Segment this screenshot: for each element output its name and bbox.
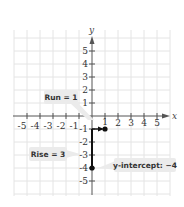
coordinate-plane: y x -5 -4 -3 -2 -1 1 2 3 4 5 5 4 3 2 1 -…: [0, 0, 184, 207]
point-y-intercept: [89, 165, 94, 170]
svg-text:-4: -4: [31, 121, 40, 131]
svg-text:-2: -2: [79, 137, 88, 147]
x-axis-label: x: [172, 111, 177, 121]
svg-text:-3: -3: [79, 150, 88, 160]
rise-callout: Rise = 3: [29, 147, 80, 161]
svg-text:1: 1: [102, 117, 108, 127]
intercept-callout: y-intercept: −4: [98, 158, 177, 172]
run-label: Run = 1: [44, 93, 77, 102]
svg-text:-5: -5: [79, 176, 88, 186]
svg-text:2: 2: [115, 118, 121, 128]
svg-text:-4: -4: [79, 163, 88, 173]
svg-text:5: 5: [154, 118, 160, 128]
svg-text:-5: -5: [18, 121, 27, 131]
point-1-neg1: [102, 126, 107, 131]
svg-text:1: 1: [82, 98, 88, 108]
svg-text:2: 2: [82, 85, 88, 95]
svg-text:5: 5: [82, 46, 88, 56]
svg-text:4: 4: [82, 59, 88, 69]
svg-text:-3: -3: [44, 121, 53, 131]
svg-text:-1: -1: [70, 121, 79, 131]
svg-text:3: 3: [82, 72, 88, 82]
y-axis-label: y: [88, 25, 95, 35]
svg-text:-1: -1: [79, 124, 88, 134]
svg-text:3: 3: [128, 118, 134, 128]
intercept-label: y-intercept: −4: [113, 161, 177, 170]
rise-label: Rise = 3: [31, 150, 66, 159]
svg-text:4: 4: [141, 118, 147, 128]
svg-text:-2: -2: [57, 121, 66, 131]
